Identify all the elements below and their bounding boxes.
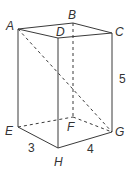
edge-DA [18,29,58,38]
edge-EH [18,127,58,148]
hidden-edge-EF [18,117,73,127]
rectangular-prism-diagram: A B C D E F G H 3 4 5 [0,0,135,175]
hidden-edge-FG [73,117,112,132]
vertex-label-H: H [54,155,63,169]
edge-CD [58,33,112,38]
measure-EH: 3 [28,141,35,155]
edge-HG [58,132,112,148]
vertex-label-G: G [115,125,124,139]
measure-HG: 4 [87,142,94,156]
vertex-label-D: D [56,25,65,39]
vertex-label-C: C [115,25,124,39]
edge-BC [73,23,112,33]
measure-CG: 5 [119,72,126,86]
vertex-label-A: A [5,19,14,33]
vertex-label-B: B [68,8,76,22]
edge-AB [18,23,73,29]
vertex-label-E: E [5,124,14,138]
vertex-label-F: F [67,120,75,134]
hidden-diagonal-AG [18,29,112,132]
